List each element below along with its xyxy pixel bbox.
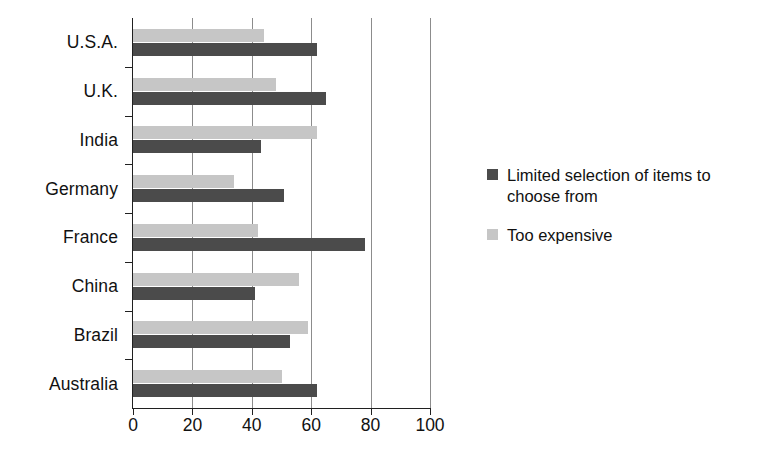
y-axis-label-6: Brazil [74,326,118,344]
y-axis-label-7: Australia [49,375,118,393]
y-axis-tick-1 [125,67,133,68]
bar-limited-selection-uk [133,92,326,105]
bar-too-expensive-france [133,224,258,237]
bar-too-expensive-india [133,126,317,139]
gridline-20 [192,18,193,408]
x-axis-tick-0 [133,408,134,415]
y-axis-tick-7 [125,359,133,360]
legend-entry-limited-selection: Limited selection of items to choose fro… [487,165,757,207]
x-axis-tick-label-80: 80 [361,415,380,435]
bar-limited-selection-usa [133,43,317,56]
bar-too-expensive-china [133,273,299,286]
bar-too-expensive-uk [133,78,276,91]
x-axis-tick-label-100: 100 [415,415,444,435]
y-axis-category-labels: U.S.A. U.K. India Germany France China B… [0,18,126,408]
legend-swatch-icon-dark [487,169,498,180]
gridline-60 [311,18,312,408]
bar-limited-selection-india [133,140,261,153]
x-axis-tick-60 [311,408,312,415]
gridline-100 [430,18,431,408]
y-axis-tick-4 [125,213,133,214]
bar-too-expensive-germany [133,175,234,188]
bar-too-expensive-brazil [133,321,308,334]
x-axis-tick-40 [252,408,253,415]
x-axis-tick-label-60: 60 [301,415,320,435]
y-axis-label-3: Germany [45,180,118,198]
y-axis-tick-5 [125,262,133,263]
y-axis-label-5: China [72,277,118,295]
chart-legend: Limited selection of items to choose fro… [487,165,757,264]
x-axis-tick-label-20: 20 [183,415,202,435]
x-axis-tick-100 [430,408,431,415]
y-axis-tick-6 [125,311,133,312]
x-axis-tick-80 [371,408,372,415]
bar-limited-selection-australia [133,384,317,397]
x-axis-tick-labels: 020406080100 [133,415,430,445]
legend-label-too-expensive: Too expensive [507,225,613,246]
x-axis-line [132,408,431,409]
x-axis-tick-label-40: 40 [242,415,261,435]
x-axis-tick-20 [192,408,193,415]
y-axis-tick-3 [125,164,133,165]
plot-area [133,18,430,408]
legend-entry-too-expensive: Too expensive [487,225,757,246]
gridline-80 [371,18,372,408]
bar-chart: U.S.A. U.K. India Germany France China B… [0,0,764,455]
gridline-40 [252,18,253,408]
bar-limited-selection-china [133,287,255,300]
bar-too-expensive-usa [133,29,264,42]
bar-limited-selection-france [133,238,365,251]
legend-swatch-icon-light [487,229,498,240]
y-axis-label-1: U.K. [84,82,118,100]
legend-label-limited-selection: Limited selection of items to choose fro… [507,165,739,207]
y-axis-label-2: India [80,131,118,149]
y-axis-label-0: U.S.A. [67,33,118,51]
bar-too-expensive-australia [133,370,282,383]
bar-limited-selection-brazil [133,335,290,348]
y-axis-tick-2 [125,116,133,117]
x-axis-tick-label-0: 0 [128,415,138,435]
y-axis-label-4: France [63,228,118,246]
bar-limited-selection-germany [133,189,284,202]
